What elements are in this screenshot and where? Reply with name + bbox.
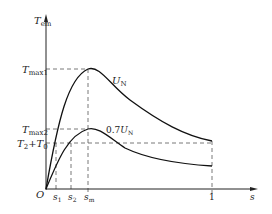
x-axis-title: s xyxy=(250,192,255,202)
y-axis-title: Tem xyxy=(34,15,52,28)
y-tick-t2-t0: T2+T0 xyxy=(17,138,48,151)
origin-label: O xyxy=(36,189,44,200)
x-tick-s2: s2 xyxy=(68,192,77,203)
y-tick-tmax1: Tmax1 xyxy=(22,64,48,77)
x-tick-sm: sm xyxy=(84,192,95,203)
y-tick-tmax2: Tmax2 xyxy=(22,124,48,137)
x-tick-one: 1 xyxy=(209,192,215,202)
x-axis-arrow-icon xyxy=(250,187,258,191)
x-tick-s1: s1 xyxy=(53,192,61,203)
series-label-07un: 0.7UN xyxy=(106,125,133,136)
torque-slip-diagram: Tem Tmax1 Tmax2 T2+T0 O s1 s2 sm 1 s UN … xyxy=(0,0,272,214)
